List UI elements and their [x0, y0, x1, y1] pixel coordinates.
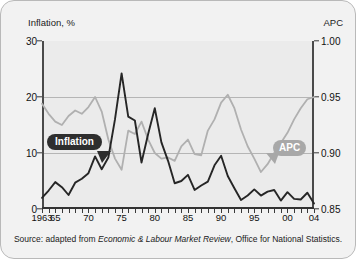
x-axis-minor-tick	[294, 209, 295, 213]
x-axis-tick-label: 04	[309, 212, 320, 223]
x-axis-tick-label: 00	[282, 212, 293, 223]
x-axis-minor-tick	[62, 209, 63, 213]
x-axis-minor-tick	[241, 209, 242, 213]
caption-prefix: Source: adapted from	[14, 234, 98, 244]
x-axis-minor-tick	[135, 209, 136, 213]
y-axis-left-tick-label: 20	[13, 92, 37, 103]
x-axis-minor-tick	[128, 209, 129, 213]
y-axis-right-tick-label: 1.00	[321, 36, 355, 47]
x-axis-minor-tick	[234, 209, 235, 213]
inflation-callout-tail	[97, 151, 111, 163]
x-axis-tick-label: 75	[116, 212, 127, 223]
y-axis-left-tick-label: 10	[13, 148, 37, 159]
y-axis-right-tick-mark	[314, 152, 319, 153]
series-lines	[42, 41, 314, 209]
caption-suffix: , Office for National Statistics.	[231, 234, 342, 244]
y-axis-left-tick-label: 30	[13, 36, 37, 47]
y-axis-right-tick-label: 0.85	[321, 204, 355, 215]
x-axis-minor-tick	[261, 209, 262, 213]
inflation-callout-label: Inflation	[47, 134, 102, 150]
caption-publication: Economic & Labour Market Review	[98, 234, 231, 244]
x-axis-tick-label: 80	[149, 212, 160, 223]
source-caption: Source: adapted from Economic & Labour M…	[1, 234, 355, 244]
x-axis-minor-tick	[301, 209, 302, 213]
x-axis-minor-tick	[75, 209, 76, 213]
x-axis-minor-tick	[268, 209, 269, 213]
x-axis-minor-tick	[228, 209, 229, 213]
x-axis-minor-tick	[208, 209, 209, 213]
x-axis-minor-tick	[161, 209, 162, 213]
apc-callout-label: APC	[273, 140, 306, 156]
x-axis-minor-tick	[195, 209, 196, 213]
y-axis-right-tick-mark	[314, 40, 319, 41]
right-axis-title: APC	[323, 17, 343, 28]
left-axis-title: Inflation, %	[28, 17, 75, 28]
y-axis-right-tick-label: 0.95	[321, 92, 355, 103]
x-axis-tick-label: 65	[50, 212, 61, 223]
x-axis-tick-label: 90	[216, 212, 227, 223]
plot-area	[42, 41, 314, 209]
x-axis-minor-tick	[201, 209, 202, 213]
x-axis-tick-label: 85	[183, 212, 194, 223]
x-axis-minor-tick	[69, 209, 70, 213]
chart-figure: Inflation, % APC 3020100 1.000.950.900.8…	[0, 0, 356, 259]
x-axis-tick-label: 95	[249, 212, 260, 223]
y-axis-right-tick-label: 0.90	[321, 148, 355, 159]
x-axis-minor-tick	[274, 209, 275, 213]
x-axis-minor-tick	[95, 209, 96, 213]
x-axis-minor-tick	[108, 209, 109, 213]
x-axis-minor-tick	[168, 209, 169, 213]
x-axis-minor-tick	[102, 209, 103, 213]
x-axis-minor-tick	[142, 209, 143, 213]
x-axis-minor-tick	[175, 209, 176, 213]
x-axis-tick-label: 70	[83, 212, 94, 223]
